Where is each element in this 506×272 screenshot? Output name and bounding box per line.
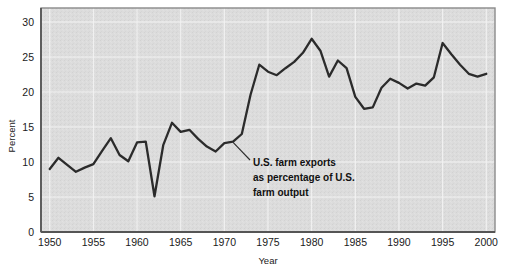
callout-line-3: farm output: [253, 187, 309, 198]
y-tick-20: 20: [22, 86, 34, 98]
callout-line-2: as percentage of U.S.: [253, 172, 355, 183]
x-tick-1970: 1970: [213, 236, 237, 248]
x-tick-1960: 1960: [125, 236, 149, 248]
y-axis-title: Percent: [6, 119, 17, 152]
x-tick-1975: 1975: [256, 236, 280, 248]
farm-exports-line-chart: 051015202530 Percent 1950195519601965197…: [0, 0, 506, 272]
y-tick-0: 0: [28, 226, 34, 238]
y-tick-15: 15: [22, 121, 34, 133]
x-tick-1980: 1980: [300, 236, 324, 248]
x-tick-2000: 2000: [475, 236, 499, 248]
plot-area: [41, 8, 495, 232]
chart-figure: 051015202530 Percent 1950195519601965197…: [0, 0, 506, 272]
x-tick-1955: 1955: [82, 236, 106, 248]
y-tick-10: 10: [22, 156, 34, 168]
x-tick-1965: 1965: [169, 236, 193, 248]
x-tick-1995: 1995: [431, 236, 455, 248]
y-tick-25: 25: [22, 51, 34, 63]
x-tick-1990: 1990: [387, 236, 411, 248]
callout-line-1: U.S. farm exports: [253, 157, 336, 168]
x-tick-1950: 1950: [38, 236, 62, 248]
x-tick-1985: 1985: [344, 236, 368, 248]
y-tick-30: 30: [22, 16, 34, 28]
y-tick-5: 5: [28, 191, 34, 203]
x-axis-title: Year: [258, 255, 277, 266]
